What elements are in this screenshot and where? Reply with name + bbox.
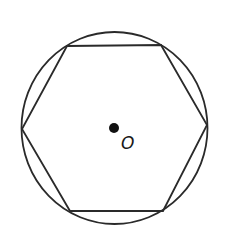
center-label: O [121, 133, 134, 153]
geometry-figure: O [0, 0, 229, 228]
diagram-canvas: O [0, 0, 229, 228]
center-point [109, 123, 119, 133]
